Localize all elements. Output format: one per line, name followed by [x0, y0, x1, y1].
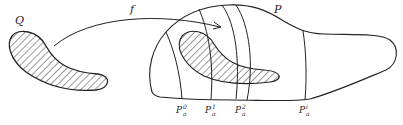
diagram-canvas: [0, 0, 403, 125]
slice-label-base: P: [176, 106, 182, 115]
slice-label-sub: a: [242, 111, 246, 117]
image-set-shape: [179, 31, 279, 83]
slice-label-p0: P 0 a: [176, 104, 192, 118]
slice-label-p2: P 2 a: [235, 104, 251, 118]
slice-label-sub: a: [306, 111, 310, 117]
slice-label-pi: P i a: [299, 104, 315, 118]
slice-label-base: P: [205, 106, 211, 115]
slice-label-sub: a: [212, 111, 216, 117]
slice-label-base: P: [299, 106, 305, 115]
label-q: Q: [15, 15, 24, 26]
label-p: P: [274, 4, 281, 15]
slice-label-sub: a: [183, 111, 187, 117]
label-f: f: [130, 4, 134, 15]
slice-curve-p2: [222, 5, 237, 99]
slice-curve-pi: [303, 31, 306, 100]
slice-label-base: P: [235, 106, 241, 115]
slice-label-p1: P 1 a: [205, 104, 221, 118]
slice-curve-p2b: [236, 5, 250, 100]
source-set-q-shape: [9, 31, 107, 90]
